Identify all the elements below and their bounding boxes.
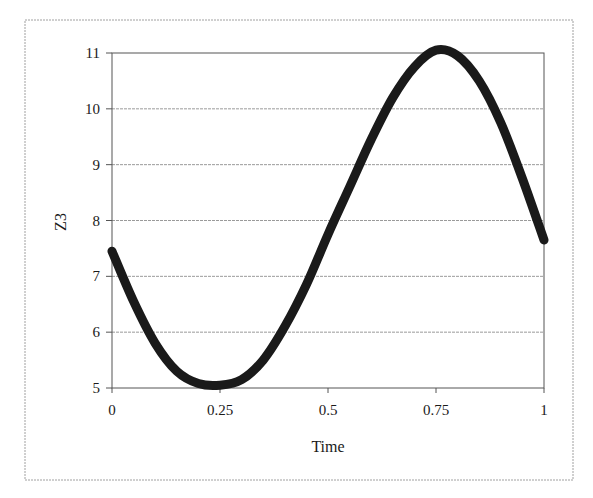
y-tick-label: 11 <box>86 45 100 61</box>
y-tick-label: 7 <box>93 268 101 284</box>
x-tick-label: 0.25 <box>207 402 233 418</box>
x-tick-label: 0.75 <box>423 402 449 418</box>
y-tick-label: 8 <box>93 213 101 229</box>
y-tick-label: 5 <box>93 380 101 396</box>
y-tick-label: 10 <box>85 101 100 117</box>
x-tick-label: 0 <box>108 402 116 418</box>
y-tick-label: 6 <box>93 324 101 340</box>
line-chart: 567891011 00.250.50.751 Time Z3 <box>0 0 593 498</box>
chart-frame <box>25 20 573 480</box>
x-tick-label: 0.5 <box>319 402 338 418</box>
y-axis-title: Z3 <box>52 213 69 231</box>
y-tick-label: 9 <box>93 157 101 173</box>
x-tick-label: 1 <box>540 402 548 418</box>
x-axis-title: Time <box>311 438 344 455</box>
